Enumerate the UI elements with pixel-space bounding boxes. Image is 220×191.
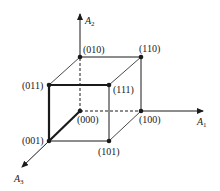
vertex-000: [78, 109, 83, 114]
label-011: (011): [22, 80, 43, 92]
axis-label-a3: A3: [13, 173, 24, 186]
label-100: (100): [139, 114, 161, 126]
axis-label-a2: A2: [84, 15, 95, 28]
vertex-111: [107, 83, 112, 88]
axis-label-a1: A1: [196, 116, 207, 129]
edge-010-011: [49, 57, 80, 85]
edge-100-101: [109, 111, 141, 141]
label-101: (101): [98, 146, 120, 158]
label-001: (001): [22, 135, 44, 147]
cube-diagram: (010) (110) (011) (111) (000) (100) (001…: [0, 0, 220, 191]
label-010: (010): [83, 44, 105, 56]
label-110: (110): [139, 43, 160, 55]
label-111: (111): [113, 84, 134, 96]
vertex-011: [47, 83, 52, 88]
vertex-110: [139, 55, 144, 60]
vertex-100: [139, 109, 144, 114]
label-000: (000): [77, 114, 99, 126]
vertex-010: [78, 55, 83, 60]
edge-000-001-bold: [49, 111, 80, 141]
vertex-101: [107, 139, 112, 144]
vertex-001: [47, 139, 52, 144]
edge-110-111: [109, 57, 141, 85]
